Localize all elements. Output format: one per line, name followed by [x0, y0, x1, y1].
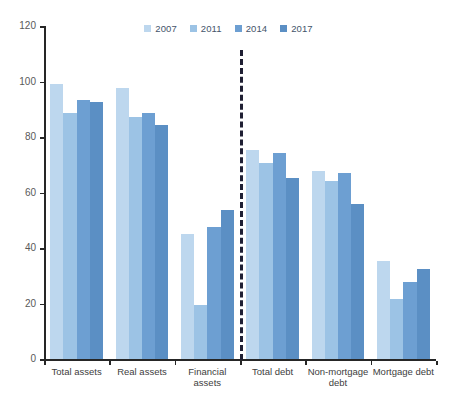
bar-2011-mortgage-debt [390, 299, 403, 359]
assets-debt-divider [240, 50, 243, 360]
bar-2007-total-debt [246, 150, 259, 360]
bar-2014-non-mortgage-debt [338, 173, 351, 359]
y-tick-label-40: 40 [6, 243, 36, 253]
bar-2014-mortgage-debt [403, 282, 416, 359]
bar-2007-mortgage-debt [377, 261, 390, 359]
x-axis-label-real-assets: Real assets [109, 366, 174, 377]
x-tick-1 [175, 361, 177, 365]
x-tick-0 [109, 361, 111, 365]
bar-2014-real-assets [142, 113, 155, 359]
bar-2014-total-assets [77, 100, 90, 359]
bar-2017-total-debt [286, 178, 299, 359]
bar-2017-total-assets [90, 102, 103, 359]
bar-2011-real-assets [129, 117, 142, 359]
bar-2007-non-mortgage-debt [312, 171, 325, 359]
y-tick-label-100: 100 [6, 77, 36, 87]
y-tick-80 [40, 137, 45, 139]
y-tick-label-120: 120 [6, 21, 36, 31]
x-axis-label-financial-assets: Financial assets [175, 366, 240, 388]
bar-2017-real-assets [155, 125, 168, 359]
x-tick-5 [436, 361, 438, 365]
y-tick-label-0: 0 [6, 354, 36, 364]
y-tick-label-80: 80 [6, 132, 36, 142]
bar-2011-total-assets [63, 113, 76, 359]
y-tick-100 [40, 82, 45, 84]
bar-2014-financial-assets [207, 227, 220, 359]
bar-2014-total-debt [273, 153, 286, 359]
y-tick-20 [40, 304, 45, 306]
bar-2007-financial-assets [181, 234, 194, 359]
bar-2017-financial-assets [221, 210, 234, 359]
bar-2007-real-assets [116, 88, 129, 359]
bar-chart: 2007 2011 2014 2017 Total assetsReal ass… [0, 0, 457, 414]
x-axis-label-mortgage-debt: Mortgage debt [371, 366, 436, 377]
x-tick-4 [371, 361, 373, 365]
x-axis-label-total-assets: Total assets [44, 366, 109, 377]
x-tick-origin [44, 361, 46, 365]
bar-2007-total-assets [50, 84, 63, 359]
y-tick-label-60: 60 [6, 188, 36, 198]
x-axis-label-total-debt: Total debt [240, 366, 305, 377]
x-tick-3 [305, 361, 307, 365]
x-axis-label-non-mortgage-debt: Non-mortgage debt [305, 366, 370, 388]
bar-2017-non-mortgage-debt [351, 204, 364, 359]
plot-area [44, 26, 436, 360]
x-tick-2 [240, 361, 242, 365]
bar-2017-mortgage-debt [417, 269, 430, 359]
y-tick-120 [40, 26, 45, 28]
y-tick-label-20: 20 [6, 299, 36, 309]
bar-2011-non-mortgage-debt [325, 181, 338, 359]
bar-2011-financial-assets [194, 305, 207, 359]
y-tick-60 [40, 193, 45, 195]
bar-2011-total-debt [259, 163, 272, 359]
y-tick-40 [40, 248, 45, 250]
